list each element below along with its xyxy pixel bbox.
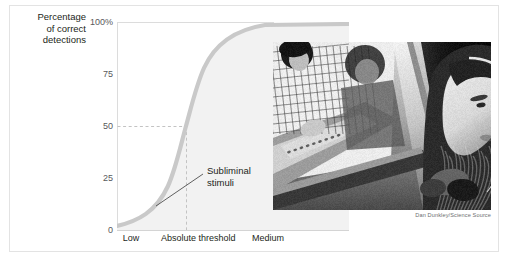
annotation-line-1: Subliminal [207, 165, 251, 177]
x-tick-label-medium: Medium [252, 233, 284, 244]
photo-image [273, 42, 491, 210]
y-tick-label: 75 [67, 69, 113, 79]
y-axis-tick-labels: 100% 75 50 25 0 [66, 0, 113, 257]
photo-credit: Dan Dunkley/Science Source [273, 212, 491, 218]
y-tick-label: 25 [67, 173, 113, 183]
x-axis-line [117, 230, 349, 231]
plot-area [117, 22, 274, 231]
x-tick-label-low: Low [123, 233, 140, 244]
x-tick-label-absolute-threshold: Absolute threshold [161, 233, 231, 244]
figure-root: Percentage of correct detections 100% 75… [0, 0, 511, 257]
y-tick-label: 100% [67, 17, 113, 27]
annotation-line-2: stimuli [207, 177, 251, 189]
y-tick-label: 50 [67, 121, 113, 131]
annotation-subliminal-stimuli: Subliminal stimuli [207, 165, 251, 188]
x-axis-tick-labels: Low Absolute threshold Medium [0, 233, 511, 257]
photograph [273, 42, 491, 210]
